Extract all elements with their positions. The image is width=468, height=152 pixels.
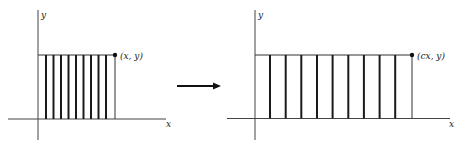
right-figure: y x (cx, y) [227,10,454,140]
left-bars [46,55,106,119]
right-x-axis-label: x [449,119,454,129]
right-bars [270,55,395,119]
left-y-axis-label: y [40,10,47,20]
right-arrow-icon [177,83,221,90]
left-x-axis-label: x [166,119,171,129]
right-point-marker [410,53,414,57]
scaling-diagram: y x (x, y) y x [0,0,468,152]
left-point-label: (x, y) [120,51,143,61]
right-point-label: (cx, y) [417,51,445,61]
left-point-marker [113,53,117,57]
left-figure: y x (x, y) [8,10,171,140]
right-y-axis-label: y [257,10,264,20]
